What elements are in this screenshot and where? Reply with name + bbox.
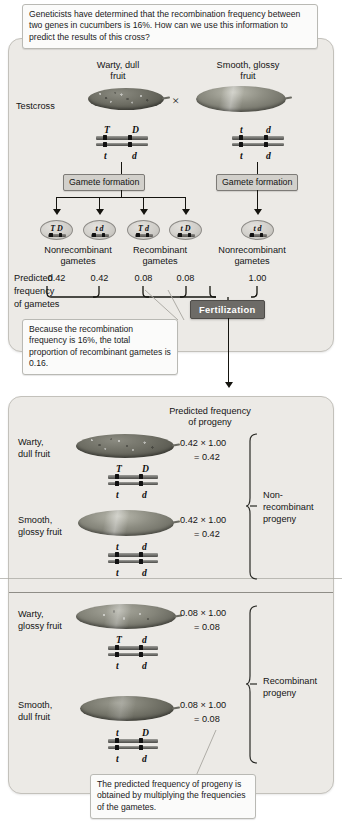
progeny-row-1-allele-bottom-right: d [142, 489, 147, 500]
progeny-note-leader-line [196, 730, 216, 776]
parent-left-allele-d: d [132, 150, 137, 161]
progeny-group-divider [9, 592, 333, 593]
progeny-row-3-chromosomes [108, 646, 158, 656]
parent-right-allele-d: d [266, 124, 271, 135]
progeny-note-leader [0, 720, 342, 780]
progeny-row-3-allele-top-right: d [142, 634, 147, 645]
progeny-row-2-calculation: 0.42 × 1.00 [180, 515, 226, 526]
progeny-row-1-allele-top-right: D [142, 463, 149, 474]
gamete-formation-box-right: Gamete formation [216, 174, 298, 191]
gamete-arrow-2 [96, 209, 104, 215]
recombinant-progeny-label-l2: progeny [263, 688, 296, 699]
progeny-row-3-result: = 0.08 [194, 622, 220, 633]
gamete-5-right: d [258, 224, 262, 233]
parent-right-cucumber-icon [196, 86, 286, 112]
branch-bar-left [56, 197, 186, 198]
parent-left-name: Warty, dull fruit [70, 60, 166, 82]
progeny-note-text: The predicted frequency of progeny is ob… [97, 779, 246, 812]
gamete-3-right: d [145, 224, 149, 233]
gamete-oval-3: T d [127, 220, 160, 240]
gamete-group-label-1: Nonrecombinant gametes [34, 245, 122, 267]
gamete-group-label-3: Nonrecombinant gametes [202, 245, 302, 267]
scan-hairline [0, 578, 342, 579]
gamete-4-right: D [185, 224, 191, 233]
cross-symbol: × [172, 93, 179, 109]
gamete-4-left: t [180, 224, 182, 233]
gamete-oval-1: T D [40, 220, 73, 240]
gamete-1-right: D [57, 224, 63, 233]
gamete-1-left: T [50, 224, 55, 233]
recombination-note-text: Because the recombination frequency is 1… [29, 324, 171, 368]
progeny-row-3-cucumber-icon [76, 604, 176, 629]
parent-left-cucumber-icon [88, 88, 164, 110]
progeny-row-3-allele-top-left: T [116, 634, 122, 645]
progeny-row-1-chromosomes [108, 475, 158, 485]
progeny-row-2-allele-bottom-left: t [116, 567, 119, 578]
gamete-arrow-5 [254, 209, 262, 215]
gamete-arrow-4 [182, 209, 190, 215]
testcross-label: Testcross [16, 101, 55, 112]
gamete-group-label-2: Recombinant gametes [122, 245, 198, 267]
progeny-row-2-phenotype-l1: Smooth, [18, 515, 52, 526]
figure-canvas: Geneticists have determined that the rec… [0, 0, 342, 840]
gamete-oval-5: t d [241, 220, 274, 240]
parent-left-allele-D: D [132, 124, 139, 135]
progeny-row-1-calculation: 0.42 × 1.00 [180, 438, 226, 449]
fertilization-down-line [228, 318, 229, 384]
parent-left-allele-t: t [104, 150, 107, 161]
parent-left-chromosomes [96, 136, 148, 146]
parent-right-name: Smooth, glossy fruit [196, 60, 300, 82]
gamete-arrow-3 [140, 209, 148, 215]
gamete-oval-4: t D [169, 220, 202, 240]
recombinant-progeny-label-l1: Recombinant [263, 676, 317, 687]
gamete-formation-box-left: Gamete formation [63, 174, 145, 191]
progeny-row-2-cucumber-icon [78, 510, 174, 536]
parent-right-allele-t2: t [240, 150, 243, 161]
recombination-note-callout: Because the recombination frequency is 1… [22, 319, 178, 375]
progeny-heading: Predicted frequency of progeny [140, 406, 280, 428]
parent-right-stem [257, 162, 258, 174]
progeny-row-3-allele-bottom-right: d [142, 660, 147, 671]
progeny-row-4-phenotype-l1: Smooth, [18, 700, 52, 711]
progeny-row-3-phenotype-l2: glossy fruit [18, 621, 62, 632]
progeny-row-4-calculation: 0.08 × 1.00 [180, 700, 226, 711]
question-callout: Geneticists have determined that the rec… [22, 4, 318, 49]
progeny-row-1-result: = 0.42 [194, 452, 220, 463]
branch-stem-right [257, 190, 258, 210]
gamete-oval-2: t d [83, 220, 116, 240]
nonrecombinant-bracket [246, 432, 262, 584]
parent-right-allele-d2: d [266, 150, 271, 161]
parent-left-stem [121, 162, 122, 174]
question-callout-text: Geneticists have determined that the rec… [29, 9, 300, 42]
nonrecombinant-progeny-label-l3: progeny [263, 514, 296, 525]
progeny-row-2-allele-top-right: d [142, 541, 147, 552]
fertilization-down-arrow [225, 382, 233, 388]
parent-right-allele-t: t [240, 124, 243, 135]
progeny-row-3-calculation: 0.08 × 1.00 [180, 608, 226, 619]
note-leader-b [168, 290, 184, 320]
parent-left-allele-T: T [104, 124, 110, 135]
progeny-row-2-phenotype-l2: glossy fruit [18, 527, 62, 538]
gamete-arrow-1 [53, 209, 61, 215]
progeny-row-2-result: = 0.42 [194, 529, 220, 540]
nonrecombinant-progeny-label-l2: recombinant [263, 502, 314, 513]
gamete-3-left: T [138, 224, 143, 233]
progeny-row-1-phenotype-l2: dull fruit [18, 449, 50, 460]
gamete-2-left: t [95, 224, 97, 233]
progeny-row-1-allele-bottom-left: t [116, 489, 119, 500]
note-leader-a [145, 290, 178, 320]
progeny-note-callout: The predicted frequency of progeny is ob… [90, 774, 256, 819]
progeny-row-2-allele-top-left: t [116, 541, 119, 552]
gamete-2-right: d [100, 224, 104, 233]
nonrecombinant-progeny-label-l1: Non- [263, 490, 283, 501]
progeny-row-1-allele-top-left: T [116, 463, 122, 474]
progeny-row-2-allele-bottom-right: d [142, 567, 147, 578]
progeny-row-1-phenotype-l1: Warty, [18, 437, 44, 448]
progeny-row-1-cucumber-icon [76, 434, 174, 458]
gamete-5-left: t [253, 224, 255, 233]
parent-right-chromosomes [232, 136, 284, 146]
progeny-row-4-cucumber-icon [80, 696, 174, 721]
progeny-row-3-phenotype-l1: Warty, [18, 609, 44, 620]
progeny-row-3-allele-bottom-left: t [116, 660, 119, 671]
progeny-row-2-chromosomes [108, 553, 158, 563]
